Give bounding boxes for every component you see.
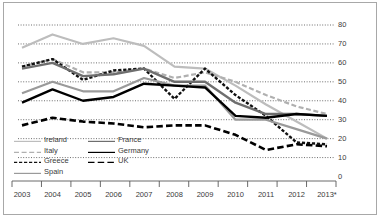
legend-swatch-icon xyxy=(88,150,115,153)
legend-swatch-icon xyxy=(88,160,115,163)
legend-label: Italy xyxy=(44,146,58,155)
legend-label: UK xyxy=(118,156,128,165)
legend-swatch-icon xyxy=(14,160,41,163)
y-tick-label: 40 xyxy=(338,96,346,105)
legend-swatch-icon xyxy=(14,171,41,174)
legend-swatch-icon xyxy=(88,139,115,142)
x-tick-label: 2013* xyxy=(309,190,345,199)
year-axis xyxy=(12,181,336,187)
y-tick-label: 80 xyxy=(338,20,346,29)
y-tick-label: 30 xyxy=(338,115,346,124)
legend-label: Germany xyxy=(118,146,149,155)
legend-swatch-icon xyxy=(14,139,41,142)
legend-label: Ireland xyxy=(44,135,67,144)
series-line-spain xyxy=(22,78,327,139)
y-tick-label: 20 xyxy=(338,134,346,143)
legend-label: France xyxy=(118,135,141,144)
y-tick-label: 60 xyxy=(338,58,346,67)
series-line-uk xyxy=(22,118,327,150)
y-tick-label: 50 xyxy=(338,77,346,86)
y-tick-label: 10 xyxy=(338,153,346,162)
y-tick-label: 70 xyxy=(338,39,346,48)
legend-label: Spain xyxy=(44,167,63,176)
line-chart: 0102030405060708020032004200520062007200… xyxy=(0,0,381,218)
y-tick-label: 0 xyxy=(338,172,342,181)
chart-canvas xyxy=(0,0,381,218)
legend-swatch-icon xyxy=(14,150,41,153)
legend-label: Greece xyxy=(44,156,69,165)
